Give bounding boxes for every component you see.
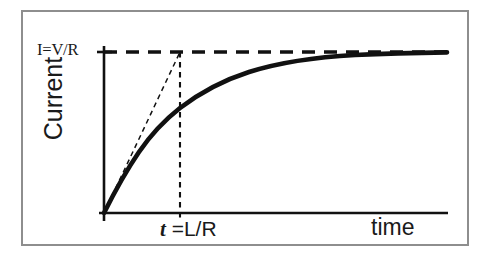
time-constant-label: t =L/R	[160, 218, 217, 240]
current-rise-curve	[104, 52, 447, 213]
x-axis-label: time	[371, 216, 414, 239]
figure-root: I=V/R Current t =L/R time	[0, 0, 491, 261]
y-axis-label: Current	[41, 39, 66, 159]
time-constant-expression: =L/R	[166, 217, 217, 240]
